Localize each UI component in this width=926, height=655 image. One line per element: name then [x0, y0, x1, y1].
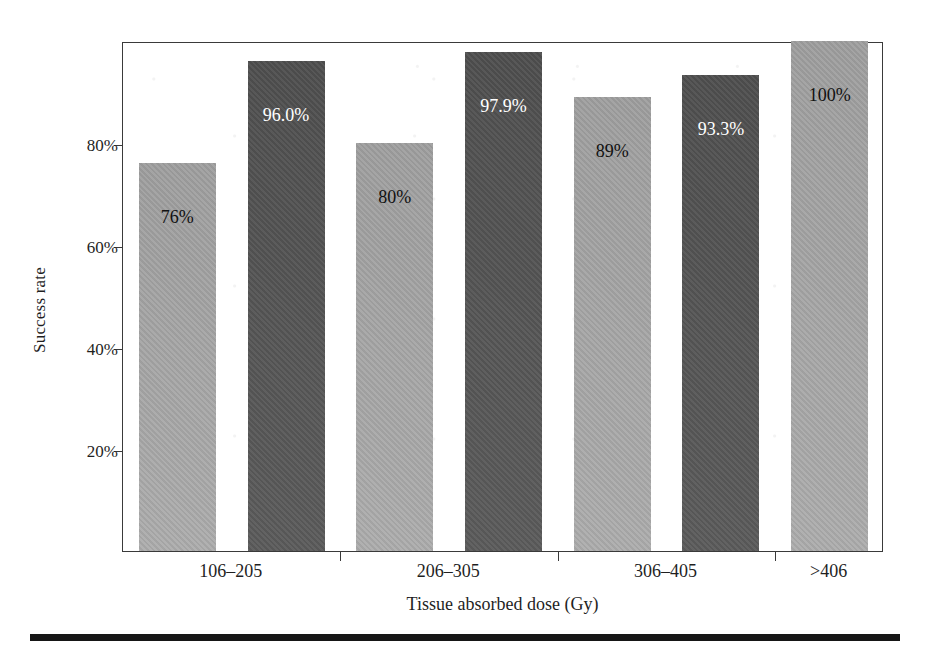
y-axis-title-text: Success rate — [30, 267, 50, 353]
x-axis-tick — [775, 551, 776, 561]
bar-light-89[interactable]: 89% — [574, 97, 651, 551]
bar-value-label: 100% — [791, 86, 868, 104]
x-axis-title: Tissue absorbed dose (Gy) — [122, 594, 883, 615]
plot-area: 20%40%60%80%76%96.0%80%97.9%89%93.3%100% — [122, 42, 883, 552]
bar-value-label: 93.3% — [682, 120, 759, 138]
y-axis-tick-label: 80% — [48, 137, 118, 154]
bar-value-label: 96.0% — [248, 106, 325, 124]
bar-value-label: 97.9% — [465, 97, 542, 115]
bar-light-76[interactable]: 76% — [139, 163, 216, 551]
bar-light-80[interactable]: 80% — [356, 143, 433, 551]
bar-value-label: 76% — [139, 208, 216, 226]
x-axis-category-label: 206–305 — [358, 562, 538, 580]
x-axis-category-label: 306–405 — [576, 562, 756, 580]
bar-dark-93.3[interactable]: 93.3% — [682, 75, 759, 551]
x-axis-tick — [558, 551, 559, 561]
bar-dark-97.9[interactable]: 97.9% — [465, 52, 542, 551]
x-axis-tick — [340, 551, 341, 561]
x-axis-category-label: 106–205 — [141, 562, 321, 580]
bar-value-label: 80% — [356, 188, 433, 206]
y-axis-tick-label: 40% — [48, 341, 118, 358]
bar-value-label: 89% — [574, 142, 651, 160]
y-axis-title: Success rate — [20, 200, 60, 420]
x-axis-category-label: >406 — [739, 562, 919, 580]
y-axis-tick-label: 60% — [48, 239, 118, 256]
bottom-rule — [30, 634, 900, 641]
y-axis-tick-label: 20% — [48, 443, 118, 460]
bar-dark-96[interactable]: 96.0% — [248, 61, 325, 551]
bar-light-100[interactable]: 100% — [791, 41, 868, 551]
figure: Success rate 20%40%60%80%76%96.0%80%97.9… — [0, 0, 926, 655]
